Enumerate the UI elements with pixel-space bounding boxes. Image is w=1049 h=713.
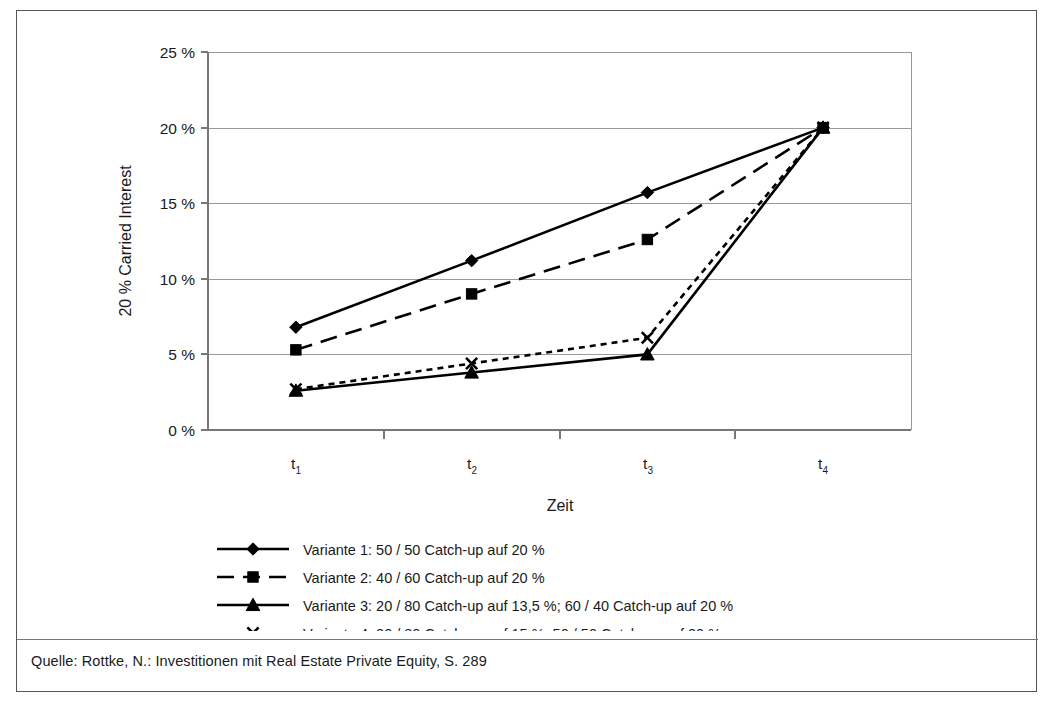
legend-marker-square-icon [248,572,258,582]
y-axis-title: 20 % Carried Interest [117,165,134,317]
data-point-1-t2 [465,254,477,266]
y-tick-label-0: 0 % [168,422,195,439]
series-layer [289,121,830,396]
series-1 [290,121,830,333]
series-3 [289,121,830,396]
line-chart: 25 % 20 % 15 % 10 % 5 % 0 % 20 % Carried… [17,11,1038,631]
x-tick-labels: t1 t2 t3 t4 [291,455,828,476]
data-point-2-t2 [466,289,476,299]
chart-legend: Variante 1: 50 / 50 Catch-up auf 20 %Var… [217,542,733,632]
x-tick-label-t3: t3 [643,455,653,476]
x-tick-marks [384,430,735,439]
y-tick-marks [201,52,208,430]
y-tick-labels: 25 % 20 % 15 % 10 % 5 % 0 % [160,44,196,439]
legend-item-3[interactable]: Variante 3: 20 / 80 Catch-up auf 13,5 %;… [217,598,733,614]
figure-root: 25 % 20 % 15 % 10 % 5 % 0 % 20 % Carried… [0,0,1049,713]
legend-marker-x-icon [247,627,258,631]
data-point-1-t1 [290,321,302,333]
series-line-1 [296,128,823,328]
source-note: Quelle: Rottke, N.: Investitionen mit Re… [31,653,487,669]
legend-marker-diamond-icon [247,543,259,555]
data-point-2-t1 [291,345,301,355]
x-tick-label-t2: t2 [467,455,477,476]
x-tick-label-t1: t1 [291,455,301,476]
legend-label-3: Variante 3: 20 / 80 Catch-up auf 13,5 %;… [303,598,733,614]
series-line-4 [296,128,823,390]
legend-label-1: Variante 1: 50 / 50 Catch-up auf 20 % [303,542,545,558]
y-tick-label-25: 25 % [160,44,196,61]
chart-canvas: 25 % 20 % 15 % 10 % 5 % 0 % 20 % Carried… [17,11,1038,631]
legend-item-1[interactable]: Variante 1: 50 / 50 Catch-up auf 20 % [217,542,545,558]
y-tick-label-20: 20 % [160,120,196,137]
series-2 [291,122,829,355]
x-axis-title: Zeit [547,497,574,514]
legend-label-2: Variante 2: 40 / 60 Catch-up auf 20 % [303,570,545,586]
gridlines [208,52,911,430]
source-divider [17,639,1038,640]
legend-label-4: Variante 4: 20 / 80 Catch-up auf 15 %; 5… [303,626,721,632]
figure-frame: 25 % 20 % 15 % 10 % 5 % 0 % 20 % Carried… [16,10,1037,692]
y-tick-label-5: 5 % [168,346,195,363]
data-point-2-t3 [642,234,652,244]
y-tick-label-15: 15 % [160,195,196,212]
legend-item-4[interactable]: Variante 4: 20 / 80 Catch-up auf 15 %; 5… [217,626,721,632]
data-point-4-t3 [642,332,653,343]
x-tick-label-t4: t4 [818,455,828,476]
series-line-2 [296,128,823,350]
legend-item-2[interactable]: Variante 2: 40 / 60 Catch-up auf 20 % [217,570,545,586]
y-tick-label-10: 10 % [160,271,196,288]
data-point-1-t3 [641,186,653,198]
